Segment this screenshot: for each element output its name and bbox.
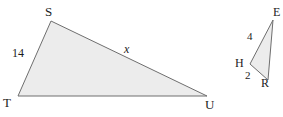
vertex-label-e: E xyxy=(273,6,280,18)
vertex-label-h: H xyxy=(235,57,244,69)
vertex-label-u: U xyxy=(205,98,214,111)
triangle-stu-shape xyxy=(18,21,207,96)
side-label-he: 4 xyxy=(247,31,253,42)
vertex-label-s: S xyxy=(45,5,52,18)
side-label-ts: 14 xyxy=(12,47,24,59)
side-label-hr: 2 xyxy=(245,70,251,81)
triangle-ehr-shape xyxy=(250,20,273,80)
vertex-label-t: T xyxy=(3,96,11,109)
side-label-su: x xyxy=(124,43,129,55)
vertex-label-r: R xyxy=(261,77,269,89)
geometry-figure: S T U 14 x E H R 4 2 xyxy=(0,0,283,117)
